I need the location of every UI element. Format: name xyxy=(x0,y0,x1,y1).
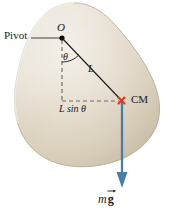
theta-angle-label: θ xyxy=(63,52,68,62)
moment-arm-label: L sin θ xyxy=(59,104,86,114)
length-label-L: L xyxy=(88,63,94,74)
center-of-mass-label: CM xyxy=(131,94,148,105)
pivot-label: Pivot xyxy=(4,30,27,41)
origin-label-O: O xyxy=(57,22,65,33)
rigid-body-shape xyxy=(14,3,159,167)
weight-force-label: m g xyxy=(98,193,114,205)
pivot-point-dot xyxy=(59,35,64,40)
physics-diagram-figure: Pivot O θ L L sin θ CM m g xyxy=(0,0,169,215)
weight-gravity-symbol-wrapper: g xyxy=(107,193,114,205)
weight-mass-symbol: m xyxy=(98,192,107,206)
weight-gravity-symbol: g xyxy=(108,192,114,206)
